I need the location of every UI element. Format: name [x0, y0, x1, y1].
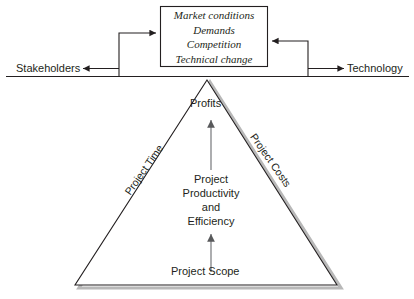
- axis-to-factors-right-connector: [272, 41, 308, 76]
- diagram-canvas: Market conditions Demands Competition Te…: [0, 0, 414, 299]
- productivity-efficiency-label: Project Productivity and Efficiency: [160, 172, 262, 228]
- axis-to-factors-left-connector: [119, 33, 156, 76]
- factor-line-demands: Demands: [161, 23, 267, 38]
- center-line-project: Project: [160, 172, 262, 186]
- factor-line-technical-change: Technical change: [161, 52, 267, 67]
- profits-label: Profits: [190, 97, 221, 110]
- factor-line-competition: Competition: [161, 37, 267, 52]
- center-line-productivity: Productivity: [160, 186, 262, 200]
- external-factors-text: Market conditions Demands Competition Te…: [161, 8, 267, 67]
- project-scope-label: Project Scope: [171, 265, 239, 278]
- factor-line-market-conditions: Market conditions: [161, 8, 267, 23]
- center-line-and: and: [160, 200, 262, 214]
- stakeholders-label: Stakeholders: [16, 62, 80, 75]
- center-line-efficiency: Efficiency: [160, 214, 262, 228]
- technology-label: Technology: [347, 62, 403, 75]
